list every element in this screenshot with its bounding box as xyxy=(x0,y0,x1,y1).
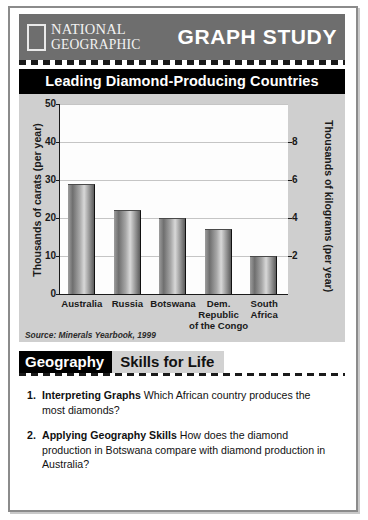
question-item: 2.Applying Geography Skills How does the… xyxy=(27,428,335,472)
question-lead: Applying Geography Skills xyxy=(42,429,177,441)
ng-logo-line-1: NATIONAL xyxy=(51,22,141,37)
question-item: 1.Interpreting Graphs Which African coun… xyxy=(27,388,335,417)
y-tick-label-right: 4 xyxy=(292,213,298,223)
chart-title: Leading Diamond-Producing Countries xyxy=(19,69,345,94)
y-tick-label-right: 8 xyxy=(292,137,298,147)
graph-study-page: NATIONAL GEOGRAPHIC GRAPH STUDY Leading … xyxy=(0,0,368,520)
skills-header: Geography Skills for Life xyxy=(19,351,345,373)
bar-slot xyxy=(106,104,152,294)
question-text: Interpreting Graphs Which African countr… xyxy=(42,388,335,417)
bar-slot xyxy=(197,104,243,294)
chart-block: Leading Diamond-Producing Countries Thou… xyxy=(19,69,345,342)
header-dashed-divider xyxy=(19,60,345,65)
x-tick-label-line: Africa xyxy=(231,309,297,320)
y-tick-label-left: 50 xyxy=(45,99,56,109)
question-number: 1. xyxy=(27,388,42,417)
x-tick-label-line: South xyxy=(231,298,297,309)
chart-source: Source: Minerals Yearbook, 1999 xyxy=(25,330,156,340)
ng-logo-line-2: GEOGRAPHIC xyxy=(51,38,141,52)
bar-slot xyxy=(60,104,106,294)
section-title: GRAPH STUDY xyxy=(178,25,339,49)
ng-rectangle-icon xyxy=(27,24,46,51)
ng-wordmark: NATIONAL GEOGRAPHIC xyxy=(51,22,141,51)
y-tick-label-left: 20 xyxy=(45,213,56,223)
bar-south-africa xyxy=(250,256,277,294)
bar-botswana xyxy=(159,218,186,294)
bar-australia xyxy=(68,184,95,294)
y-tick-label-left: 30 xyxy=(45,175,56,185)
geography-badge: Geography xyxy=(19,351,112,373)
y-axis-label-left: Thousands of carats (per year) xyxy=(31,120,43,280)
bar-russia xyxy=(114,210,141,294)
y-tick-mark-right xyxy=(288,142,292,143)
y-tick-label-left: 40 xyxy=(45,137,56,147)
bar-series xyxy=(60,104,288,294)
skills-section: Geography Skills for Life 1.Interpreting… xyxy=(19,351,345,472)
page-inner: NATIONAL GEOGRAPHIC GRAPH STUDY Leading … xyxy=(19,14,345,502)
x-tick-label: SouthAfrica xyxy=(231,298,297,320)
question-number: 2. xyxy=(27,428,42,472)
skills-heading: Skills for Life xyxy=(112,351,224,373)
plot-area: 01020304050 2468 xyxy=(59,104,288,295)
page-header: NATIONAL GEOGRAPHIC GRAPH STUDY xyxy=(19,14,345,60)
x-axis-labels: AustraliaRussiaBotswanaDem. Republicof t… xyxy=(59,298,287,332)
bar-slot xyxy=(151,104,197,294)
chart-area: Thousands of carats (per year) Thousands… xyxy=(19,94,345,339)
y-tick-mark-right xyxy=(288,256,292,257)
y-tick-mark-right xyxy=(288,180,292,181)
y-axis-label-right: Thousands of kilograms (per year) xyxy=(323,120,335,280)
question-lead: Interpreting Graphs xyxy=(42,389,141,401)
bar-slot xyxy=(242,104,288,294)
page-card: NATIONAL GEOGRAPHIC GRAPH STUDY Leading … xyxy=(8,6,358,512)
skills-dashed-divider xyxy=(19,373,345,376)
skills-header-filler xyxy=(224,351,345,373)
national-geographic-logo: NATIONAL GEOGRAPHIC xyxy=(27,22,141,51)
y-tick-label-left: 10 xyxy=(45,251,56,261)
y-tick-mark-left xyxy=(56,294,60,295)
x-tick-label-line: of the Congo xyxy=(186,320,252,331)
question-text: Applying Geography Skills How does the d… xyxy=(42,428,335,472)
y-tick-mark-right xyxy=(288,218,292,219)
y-tick-label-right: 6 xyxy=(292,175,298,185)
questions-list: 1.Interpreting Graphs Which African coun… xyxy=(19,388,345,472)
y-tick-label-right: 2 xyxy=(292,251,298,261)
bar-dem-republic-of-the-congo xyxy=(205,229,232,294)
